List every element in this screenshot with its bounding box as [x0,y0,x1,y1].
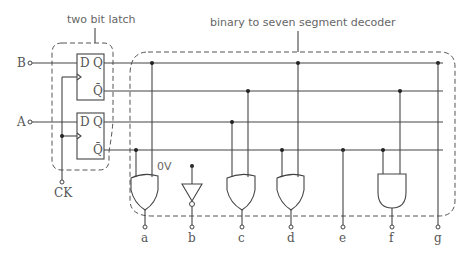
output-b-label: b [188,231,196,245]
ff-b-d-pin: D [80,56,90,70]
decoder-title: binary to seven segment decoder [210,16,396,29]
output-e-wire [341,148,345,225]
output-c-terminal[interactable] [240,225,244,229]
output-f-terminal[interactable] [390,225,394,229]
output-d-terminal[interactable] [289,225,293,229]
ff-a-qbar-pin: Q̄ [93,142,103,157]
output-f-label: f [389,231,395,245]
output-e-terminal[interactable] [341,225,345,229]
output-g-label: g [434,231,442,245]
ff-b-q-pin: Q [93,56,103,70]
gate-a-or [131,61,158,225]
input-b-label: B [17,56,26,70]
output-c-label: c [238,231,245,245]
clock-junction [60,134,64,138]
gate-d-or [277,61,304,225]
flipflop-a: D Q Q̄ [77,113,104,159]
output-g-terminal[interactable] [436,225,440,229]
zero-volt-label: 0V [157,160,172,173]
input-a-label: A [16,115,26,129]
clock-label: CK [54,186,73,200]
clock-terminal[interactable] [60,180,64,184]
flipflop-b: D Q Q̄ [77,54,104,100]
latch-title: two bit latch [67,13,136,26]
output-g-wire [436,61,440,225]
input-b-terminal[interactable] [28,61,32,65]
ff-a-d-pin: D [80,115,90,129]
circuit-diagram: two bit latch binary to seven segment de… [0,0,470,254]
input-a-terminal[interactable] [28,120,32,124]
output-b-terminal[interactable] [190,225,194,229]
gate-f-and [378,89,406,225]
ff-b-qbar-pin: Q̄ [93,83,103,98]
output-e-label: e [339,231,346,245]
ff-a-q-pin: Q [93,115,103,129]
gate-c-or [227,89,255,225]
output-a-label: a [141,231,148,245]
output-a-terminal[interactable] [143,225,147,229]
output-d-label: d [287,231,295,245]
